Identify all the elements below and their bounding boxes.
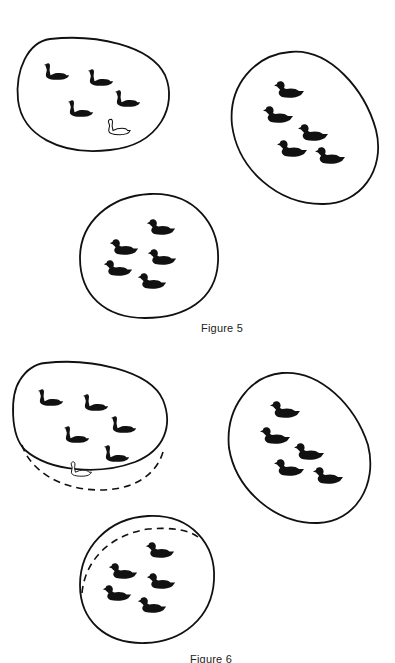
black-swan-icon	[115, 90, 140, 107]
black-swan-icon	[263, 106, 293, 122]
black-duck-icon	[148, 249, 176, 265]
figure-6	[13, 362, 370, 643]
set-top-right	[232, 52, 379, 204]
black-swan-icon	[313, 467, 343, 483]
black-duck-icon	[147, 219, 175, 235]
white-swan-icon	[108, 119, 130, 134]
set-bottom-contracted	[80, 516, 214, 643]
black-swan-icon	[274, 459, 304, 475]
black-duck-icon	[103, 585, 131, 601]
figure-5-caption: Figure 5	[201, 322, 243, 334]
black-duck-icon	[110, 239, 138, 255]
black-swan-icon	[44, 63, 69, 80]
black-swan-icon	[68, 100, 93, 117]
black-duck-icon	[138, 273, 166, 289]
set-top-left	[18, 38, 170, 151]
black-duck-icon	[138, 597, 166, 613]
figure-6-caption: Figure 6	[190, 653, 232, 663]
black-swan-icon	[111, 416, 136, 433]
black-swan-icon	[88, 69, 113, 86]
dashed-boundary-extension	[22, 445, 163, 490]
set-left-expanded	[13, 362, 167, 490]
black-swan-icon	[64, 426, 89, 443]
black-duck-icon	[146, 542, 174, 558]
black-swan-icon	[270, 401, 300, 417]
black-duck-icon	[147, 573, 175, 589]
black-swan-icon	[315, 147, 345, 163]
black-swan-icon	[277, 140, 307, 156]
black-swan-icon	[260, 427, 290, 443]
set-bottom-center	[80, 194, 218, 318]
black-duck-icon	[104, 260, 132, 276]
black-swan-icon	[104, 445, 129, 462]
black-swan-icon	[38, 389, 63, 406]
black-swan-icon	[294, 443, 324, 459]
figure-5	[18, 38, 379, 318]
diagram-canvas	[0, 0, 395, 663]
black-duck-icon	[109, 563, 137, 579]
set-right	[229, 373, 371, 523]
black-swan-icon	[298, 124, 328, 140]
black-swan-icon	[83, 394, 108, 411]
black-swan-icon	[274, 81, 304, 97]
